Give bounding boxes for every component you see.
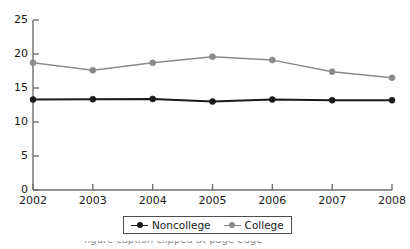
x-axis-tick-label: 2005 xyxy=(191,195,235,206)
y-axis-tick-label: 10 xyxy=(4,116,28,127)
data-point-college-2004 xyxy=(150,60,156,66)
legend-marker-icon xyxy=(224,221,241,230)
data-point-college-2003 xyxy=(90,67,96,73)
data-point-college-2007 xyxy=(329,69,335,75)
axis-lines xyxy=(33,20,392,190)
y-axis-tick-label: 15 xyxy=(4,82,28,93)
x-axis-ticks xyxy=(33,184,392,190)
legend-item-college: College xyxy=(224,220,284,231)
plot-svg xyxy=(0,0,402,210)
data-point-college-2008 xyxy=(389,75,395,81)
data-point-noncollege-2007 xyxy=(329,97,335,103)
data-point-noncollege-2002 xyxy=(30,97,36,103)
y-axis-tick-label: 20 xyxy=(4,48,28,59)
data-point-noncollege-2008 xyxy=(389,97,395,103)
x-axis-tick-label: 2004 xyxy=(131,195,175,206)
chart-legend: Noncollege College xyxy=(123,216,292,234)
y-axis-tick-label: 5 xyxy=(4,150,28,161)
data-point-noncollege-2004 xyxy=(150,96,156,102)
legend-label-college: College xyxy=(245,220,284,231)
legend-label-noncollege: Noncollege xyxy=(152,220,211,231)
legend-marker-icon xyxy=(131,221,148,230)
x-axis-tick-label: 2006 xyxy=(250,195,294,206)
data-point-noncollege-2005 xyxy=(210,99,216,105)
x-axis-tick-label: 2002 xyxy=(11,195,55,206)
y-axis-tick-label: 25 xyxy=(4,14,28,25)
x-axis-tick-label: 2008 xyxy=(370,195,410,206)
legend-item-noncollege: Noncollege xyxy=(131,220,211,231)
series-layer xyxy=(30,54,395,105)
data-point-noncollege-2003 xyxy=(90,96,96,102)
caption-text: figure caption clipped at page edge xyxy=(84,241,262,245)
data-point-noncollege-2006 xyxy=(269,97,275,103)
x-axis-tick-label: 2007 xyxy=(310,195,354,206)
data-point-college-2005 xyxy=(210,54,216,60)
data-point-college-2002 xyxy=(30,60,36,66)
plot-area: 0510152025 2002200320042005200620072008 xyxy=(0,0,402,210)
x-axis-tick-label: 2003 xyxy=(71,195,115,206)
y-axis-ticks xyxy=(33,20,39,190)
data-point-college-2006 xyxy=(269,57,275,63)
clipped-caption: figure caption clipped at page edge xyxy=(0,241,402,249)
